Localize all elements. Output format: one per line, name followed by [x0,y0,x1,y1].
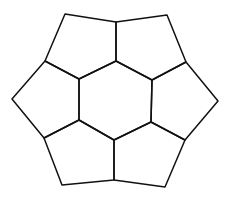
pentagon-top-right [116,15,186,80]
hexagon-pentagon-tiling [0,0,228,197]
pentagon-right [151,62,218,140]
pentagon-bottom-left [44,120,114,185]
pentagon-top-left [45,14,116,79]
pentagon-left [12,61,79,138]
pentagon-bottom-right [114,122,185,187]
